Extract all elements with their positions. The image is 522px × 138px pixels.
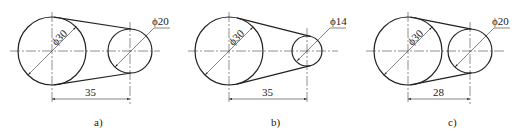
center-distance-label: 28	[433, 86, 445, 98]
figure-caption: c)	[448, 116, 457, 129]
belt-upper-tangent	[54, 17, 131, 29]
diameter-leader-small	[115, 28, 154, 67]
figure-caption: b)	[271, 116, 281, 129]
diameter-label-small: ϕ20	[152, 15, 169, 27]
belt-upper-tangent	[410, 17, 471, 29]
belt-lower-tangent	[54, 73, 131, 85]
figure-c: ϕ30 ϕ20 28 c)	[366, 12, 510, 129]
diameter-label-small: ϕ20	[492, 15, 509, 27]
belt-upper-tangent	[237, 18, 311, 37]
diameter-leader-small	[297, 28, 330, 61]
figure-a: ϕ30 ϕ20 35 a)	[10, 12, 170, 129]
center-distance-label: 35	[85, 86, 97, 98]
diameter-label-small: ϕ14	[330, 15, 347, 27]
belt-lower-tangent	[237, 66, 311, 85]
diameter-leader-small	[455, 28, 494, 67]
center-distance-label: 35	[262, 86, 274, 98]
belt-lower-tangent	[410, 73, 471, 85]
figure-caption: a)	[94, 116, 103, 129]
figure-b: ϕ30 ϕ14 35 b)	[188, 12, 347, 129]
belt-drive-drawings: ϕ30 ϕ20 35 a) ϕ30 ϕ14 35 b) ϕ30	[0, 0, 522, 138]
